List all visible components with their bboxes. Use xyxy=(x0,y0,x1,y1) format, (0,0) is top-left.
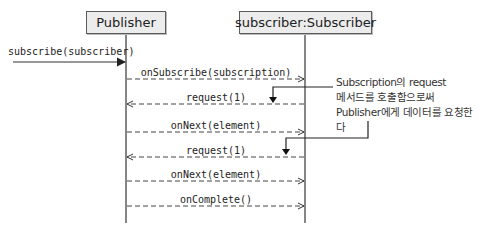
sequence-diagram: Publisher subscriber:Subscriber subscrib… xyxy=(0,0,479,234)
participant-label: Publisher xyxy=(96,15,156,30)
message-label: onNext(element) xyxy=(127,120,305,131)
annotation-line: Subscription의 request xyxy=(336,75,479,90)
message-label: onComplete() xyxy=(127,194,305,205)
participant-label: subscriber:Subscriber xyxy=(235,15,376,30)
message-label: onNext(element) xyxy=(127,169,305,180)
message-label: request(1) xyxy=(127,92,305,103)
message-label: onSubscribe(subscription) xyxy=(127,67,305,78)
annotation-line: 메서드를 호출함으로써 xyxy=(336,90,479,105)
participant-publisher: Publisher xyxy=(86,11,166,34)
annotation-note: Subscription의 request 메서드를 호출함으로써 Publis… xyxy=(336,75,479,135)
annotation-line: Publisher에게 데이터를 요청한다 xyxy=(336,105,479,135)
message-label: request(1) xyxy=(127,145,305,156)
participant-subscriber: subscriber:Subscriber xyxy=(239,11,372,34)
message-label: subscribe(subscriber) xyxy=(8,46,124,57)
